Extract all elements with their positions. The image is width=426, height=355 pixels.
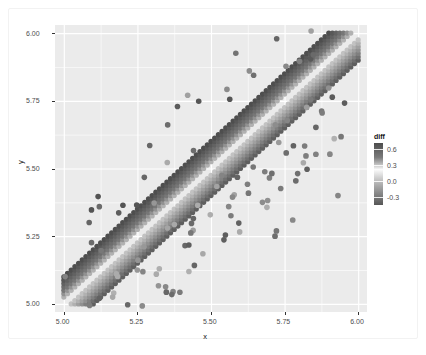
legend-title: diff — [374, 133, 419, 140]
scatter-plot-figure: y 5.005.255.505.756.00 x 5.005.255.505.7… — [0, 0, 426, 355]
legend-tick-label: -0.3 — [387, 194, 399, 201]
y-axis-tick-mark — [52, 169, 55, 170]
y-axis-tick-label: 5.75 — [26, 97, 40, 104]
legend-tick-mark — [374, 197, 383, 198]
y-axis-tick-mark — [52, 101, 55, 102]
y-axis-title: y — [17, 160, 25, 164]
legend-colorbar — [374, 143, 383, 205]
x-axis-tick-label: 5.50 — [203, 318, 217, 325]
y-axis-tick-mark — [52, 304, 55, 305]
y-axis-tick-label: 5.50 — [26, 165, 40, 172]
scatter-points-layer — [55, 25, 367, 312]
x-axis-title: x — [203, 333, 207, 341]
x-axis-tick-mark — [358, 312, 359, 315]
x-axis-tick-mark — [285, 312, 286, 315]
legend-tick-label: 0.3 — [387, 162, 397, 169]
x-axis-tick-label: 5.25 — [129, 318, 143, 325]
y-axis-tick-mark — [52, 33, 55, 34]
x-axis-tick-mark — [137, 312, 138, 315]
legend-tick-mark — [374, 181, 383, 182]
y-axis-tick-label: 6.00 — [26, 30, 40, 37]
x-axis-tick-label: 6.00 — [350, 318, 364, 325]
y-axis-tick-mark — [52, 236, 55, 237]
legend-body: 0.60.30.0-0.3 — [373, 143, 419, 205]
x-axis-tick-label: 5.75 — [277, 318, 291, 325]
y-axis-tick-label: 5.25 — [26, 233, 40, 240]
legend: diff 0.60.30.0-0.3 — [373, 133, 419, 205]
plot-panel — [55, 25, 367, 312]
x-axis-tick-label: 5.00 — [56, 318, 70, 325]
legend-tick-label: 0.0 — [387, 178, 397, 185]
legend-tick-mark — [374, 149, 383, 150]
x-axis-tick-mark — [211, 312, 212, 315]
x-axis-tick-mark — [64, 312, 65, 315]
legend-tick-label: 0.6 — [387, 146, 397, 153]
legend-tick-mark — [374, 165, 383, 166]
y-axis-tick-label: 5.00 — [26, 300, 40, 307]
